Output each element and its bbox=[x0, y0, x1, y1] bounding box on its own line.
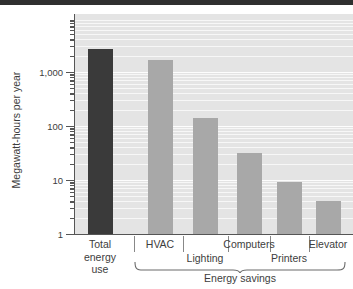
y-tick-minor bbox=[70, 84, 75, 85]
y-tick-minor bbox=[70, 74, 75, 75]
x-label-line: use bbox=[70, 263, 130, 276]
y-tick-minor bbox=[70, 56, 75, 57]
y-tick-minor bbox=[70, 208, 75, 209]
gridline bbox=[75, 34, 353, 35]
y-tick-minor bbox=[70, 80, 75, 81]
y-tick-minor bbox=[70, 100, 75, 101]
gridline bbox=[75, 100, 353, 101]
y-tick-minor bbox=[70, 154, 75, 155]
y-tick-minor bbox=[70, 196, 75, 197]
gridline bbox=[75, 77, 353, 78]
y-tick-minor bbox=[70, 20, 75, 21]
gridline bbox=[75, 20, 353, 21]
y-tick-major bbox=[66, 126, 75, 127]
bar-elevator[interactable] bbox=[316, 201, 341, 234]
bar-hvac[interactable] bbox=[148, 60, 173, 234]
x-label-line: Total bbox=[70, 238, 130, 251]
y-tick-minor bbox=[70, 147, 75, 148]
x-axis-line bbox=[74, 234, 353, 235]
y-tick-minor bbox=[70, 110, 75, 111]
gridline bbox=[75, 39, 353, 40]
y-tick-minor bbox=[70, 77, 75, 78]
figure: 1101001,000 Megawatt-hours per year Tota… bbox=[0, 0, 353, 289]
y-tick-minor bbox=[70, 131, 75, 132]
gridline bbox=[75, 93, 353, 94]
y-tick-major bbox=[66, 72, 75, 73]
y-tick-minor bbox=[70, 30, 75, 31]
y-tick-minor bbox=[70, 192, 75, 193]
y-tick-major bbox=[66, 180, 75, 181]
group-label-energy-savings: Energy savings bbox=[204, 272, 276, 284]
gridline bbox=[75, 74, 353, 75]
top-dark-band bbox=[0, 0, 353, 5]
gridline bbox=[75, 30, 353, 31]
y-tick-minor bbox=[70, 201, 75, 202]
gridline bbox=[75, 23, 353, 24]
y-axis-title: Megawatt-hours per year bbox=[10, 35, 22, 225]
y-tick-minor bbox=[70, 134, 75, 135]
gridline bbox=[75, 26, 353, 27]
x-label-line: energy bbox=[70, 251, 130, 264]
y-tick-minor bbox=[70, 88, 75, 89]
x-axis-label-elevator: Elevator bbox=[309, 238, 348, 250]
y-tick-minor bbox=[70, 93, 75, 94]
y-tick-minor bbox=[70, 138, 75, 139]
gridline bbox=[75, 84, 353, 85]
x-group-separator bbox=[134, 236, 135, 252]
x-axis-label-total: Totalenergyuse bbox=[70, 238, 130, 276]
y-tick-minor bbox=[70, 23, 75, 24]
gridline bbox=[75, 88, 353, 89]
y-tick-minor bbox=[70, 46, 75, 47]
y-tick-minor bbox=[70, 188, 75, 189]
y-tick-minor bbox=[70, 34, 75, 35]
gridline bbox=[75, 80, 353, 81]
y-tick-label: 1 bbox=[6, 229, 63, 240]
gridline bbox=[75, 72, 353, 73]
x-axis-label-hvac: HVAC bbox=[146, 238, 174, 250]
y-tick-major bbox=[66, 234, 75, 235]
y-tick-minor bbox=[70, 164, 75, 165]
x-group-separator bbox=[183, 236, 184, 252]
x-axis-label-computers: Computers bbox=[223, 238, 274, 250]
bar-total-energy-use[interactable] bbox=[88, 49, 113, 234]
y-tick-minor bbox=[70, 218, 75, 219]
bar-computers[interactable] bbox=[237, 153, 262, 234]
bar-printers[interactable] bbox=[277, 182, 302, 234]
gridline bbox=[75, 56, 353, 57]
y-tick-minor bbox=[70, 142, 75, 143]
y-tick-minor bbox=[70, 128, 75, 129]
y-tick-minor bbox=[70, 39, 75, 40]
y-tick-minor bbox=[70, 26, 75, 27]
gridline bbox=[75, 110, 353, 111]
gridline bbox=[75, 46, 353, 47]
bar-lighting[interactable] bbox=[193, 118, 218, 234]
y-tick-minor bbox=[70, 182, 75, 183]
y-tick-minor bbox=[70, 185, 75, 186]
